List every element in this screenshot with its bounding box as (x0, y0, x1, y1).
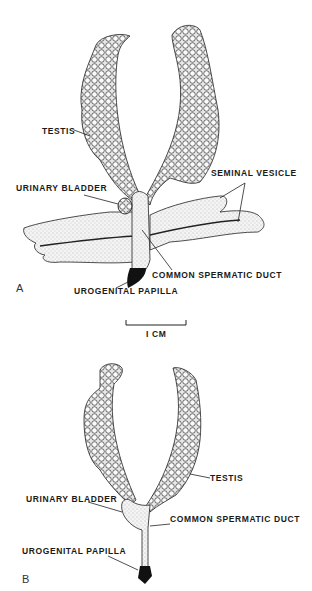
label-common-spermatic-duct-a: COMMON SPERMATIC DUCT (152, 270, 282, 280)
label-common-spermatic-duct-b: COMMON SPERMATIC DUCT (170, 514, 300, 524)
label-urinary-bladder-b: URINARY BLADDER (26, 494, 117, 504)
common-spermatic-duct-a (132, 192, 150, 276)
left-testis-a (81, 34, 140, 200)
right-seminal-vesicle (150, 196, 264, 250)
urogenital-papilla-b (138, 566, 152, 584)
scale-bar-label: I CM (146, 329, 166, 339)
label-testis-a: TESTIS (42, 126, 75, 136)
right-testis-a (144, 25, 219, 205)
panel-a-drawing (24, 25, 264, 288)
panel-letter-a: A (16, 282, 23, 294)
panel-letter-b: B (22, 573, 29, 585)
urogenital-papilla-a (127, 268, 146, 288)
urinary-bladder-a (118, 198, 132, 214)
scale-bar (126, 320, 186, 325)
label-urogenital-papilla-a: UROGENITAL PAPILLA (74, 286, 178, 296)
label-urinary-bladder-a: URINARY BLADDER (16, 183, 107, 193)
label-seminal-vesicle-a: SEMINAL VESICLE (211, 168, 297, 178)
label-testis-b: TESTIS (210, 473, 243, 483)
label-urogenital-papilla-b: UROGENITAL PAPILLA (22, 546, 126, 556)
common-spermatic-duct-b (122, 499, 150, 568)
left-testis-b (84, 364, 136, 505)
right-testis-b (146, 368, 201, 512)
